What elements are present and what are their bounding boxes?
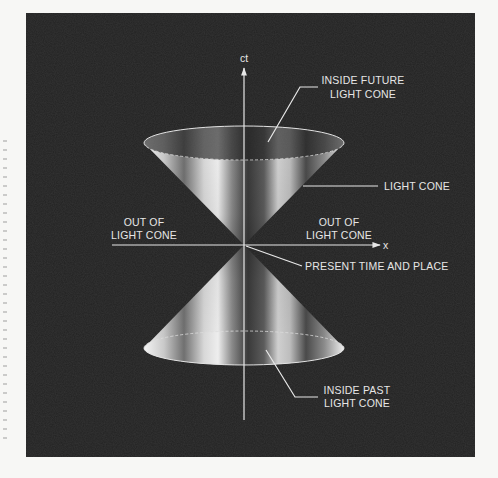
past-label-line1: INSIDE PAST xyxy=(324,384,391,396)
ct-axis-label: ct xyxy=(240,52,248,64)
light-cone-figure: ct x INSIDE FUTURE LIGHT CONE LIGHT CONE… xyxy=(0,0,498,478)
light-cone-diagram: ct x INSIDE FUTURE LIGHT CONE LIGHT CONE… xyxy=(0,0,498,478)
future-label-line1: INSIDE FUTURE xyxy=(321,74,404,86)
future-label-line2: LIGHT CONE xyxy=(330,88,396,100)
label-inside-past-light-cone: INSIDE PAST LIGHT CONE xyxy=(324,384,391,409)
out-left-line2: LIGHT CONE xyxy=(111,229,177,241)
x-axis-label: x xyxy=(383,239,389,251)
out-left-line1: OUT OF xyxy=(124,216,165,228)
past-label-line2: LIGHT CONE xyxy=(324,397,390,409)
label-present-time-and-place: PRESENT TIME AND PLACE xyxy=(305,260,448,272)
label-light-cone: LIGHT CONE xyxy=(384,180,450,192)
out-right-line2: LIGHT CONE xyxy=(306,229,372,241)
out-right-line1: OUT OF xyxy=(319,216,360,228)
